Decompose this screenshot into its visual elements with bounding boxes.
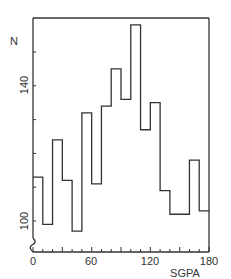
x-axis-ticks [33,247,209,252]
x-tick-label-180: 180 [200,255,218,267]
y-axis-label: N [10,35,18,47]
x-tick-label-0: 0 [30,255,36,267]
x-tick-label-60: 60 [85,255,97,267]
histogram-chart: N 140 100 0 60 120 180 SGPA [0,0,231,279]
plot-frame [30,18,209,252]
x-tick-label-120: 120 [141,255,159,267]
y-tick-label-100: 100 [18,212,30,230]
x-axis-label: SGPA [170,267,200,279]
y-tick-label-140: 140 [18,76,30,94]
histogram-step-line [33,25,209,231]
